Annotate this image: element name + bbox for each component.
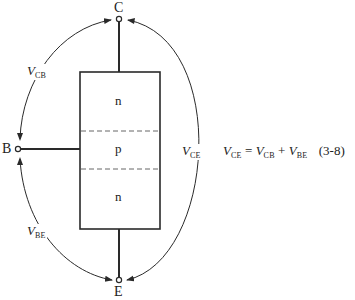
emitter-region-label: n [115,190,122,203]
emitter-label: E [114,285,123,299]
vbe-arrow [20,159,112,280]
eq-equals: = [245,143,252,158]
eq-term2-sub: BE [297,151,308,160]
vcb-subscript: CB [35,71,46,80]
base-label: B [2,142,11,156]
vcb-symbol: V [27,63,35,78]
eq-lhs-sub: CE [231,151,242,160]
eq-term2-symbol: V [289,143,297,158]
eq-term1-symbol: V [256,143,264,158]
vce-subscript: CE [190,151,201,160]
vce-label: VCE [181,144,202,160]
emitter-terminal [116,277,121,282]
vce-symbol: V [182,143,190,158]
collector-region-label: n [115,94,122,107]
equation: VCE = VCB + VBE (3-8) [223,144,345,160]
vbe-symbol: V [27,223,35,238]
vbe-subscript: BE [35,231,46,240]
base-region-label: p [115,142,122,155]
vbe-arrowhead-base [17,157,23,165]
vce-arrowhead-collector [127,18,135,24]
collector-label: C [114,1,123,15]
vbe-label: VBE [26,224,47,240]
base-terminal [15,146,20,151]
vcb-label: VCB [26,64,47,80]
collector-terminal [116,16,121,21]
vcb-arrowhead-base [17,133,23,141]
eq-lhs-symbol: V [223,143,231,158]
eq-plus: + [278,143,285,158]
eq-number: (3-8) [319,143,345,158]
eq-term1-sub: CB [264,151,275,160]
